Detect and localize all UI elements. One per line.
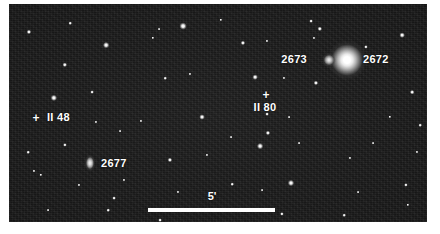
star: [167, 157, 172, 162]
label-ii80: II 80: [254, 102, 277, 113]
star: [372, 142, 375, 145]
star: [106, 208, 110, 212]
star: [63, 143, 67, 147]
star: [94, 120, 97, 123]
star: [176, 190, 179, 193]
star: [163, 76, 167, 80]
star: [288, 116, 291, 119]
star: [47, 209, 50, 212]
star: [230, 182, 234, 186]
star: [399, 32, 405, 38]
star: [240, 40, 245, 45]
star: [68, 21, 72, 25]
star: [90, 90, 94, 94]
star: [348, 156, 351, 159]
label-ii48: II 48: [47, 112, 70, 123]
star: [252, 74, 258, 80]
star: [158, 28, 161, 31]
star: [103, 42, 110, 49]
label-ngc2672: 2672: [363, 54, 389, 65]
star: [418, 123, 422, 127]
star: [265, 112, 269, 116]
galaxy-ngc2677: [85, 155, 96, 172]
star: [282, 76, 285, 79]
star: [179, 22, 187, 30]
star: [313, 80, 318, 85]
star: [139, 119, 142, 122]
star: [410, 90, 415, 95]
star: [312, 36, 315, 39]
marker-ii48-plus-icon: +: [32, 112, 39, 124]
label-ngc2677: 2677: [101, 158, 127, 169]
star: [188, 72, 191, 75]
star: [388, 115, 391, 118]
star: [364, 45, 368, 49]
star: [158, 218, 162, 222]
star: [205, 153, 208, 156]
star: [404, 183, 408, 187]
star: [39, 173, 42, 176]
star: [257, 143, 264, 150]
star: [122, 178, 125, 181]
star: [317, 26, 322, 31]
star: [287, 179, 294, 186]
marker-ii80-plus-icon: +: [262, 89, 269, 101]
star: [298, 142, 301, 145]
galaxy-ngc2673: [322, 53, 337, 67]
star: [199, 114, 205, 120]
star: [415, 150, 418, 153]
star: [32, 169, 35, 172]
star: [265, 39, 268, 42]
plate-vignette: [9, 4, 427, 222]
star: [50, 94, 57, 101]
star: [26, 150, 30, 154]
plate-grain-texture: [9, 4, 427, 222]
star: [62, 62, 67, 67]
star: [261, 189, 264, 192]
star: [112, 196, 116, 200]
label-ngc2673: 2673: [281, 54, 307, 65]
star: [357, 191, 360, 194]
star: [219, 18, 222, 21]
star: [280, 212, 284, 216]
star: [230, 136, 233, 139]
star: [77, 183, 80, 186]
scale-bar-line: [148, 208, 275, 212]
star: [265, 130, 270, 135]
sky-field-image: ++ 26732672II 80II 482677 5': [9, 4, 427, 222]
scale-bar-label: 5': [208, 191, 217, 202]
star: [309, 19, 313, 23]
star: [342, 213, 346, 217]
star: [151, 36, 154, 39]
star: [406, 203, 409, 206]
star: [119, 130, 122, 133]
star: [26, 29, 31, 34]
finding-chart-figure: ++ 26732672II 80II 482677 5': [0, 0, 440, 234]
